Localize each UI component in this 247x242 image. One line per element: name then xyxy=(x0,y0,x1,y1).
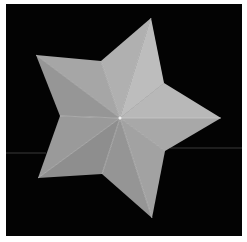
star-scene xyxy=(6,4,242,236)
image-frame: five-pointed gray faceted star on black … xyxy=(6,4,242,236)
star-shape xyxy=(36,18,221,218)
star-center-highlight xyxy=(119,117,122,120)
